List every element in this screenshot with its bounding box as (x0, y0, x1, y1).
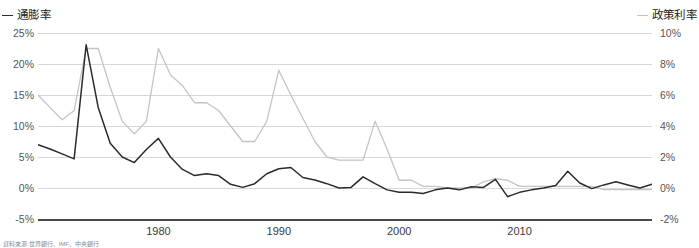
x-axis-tick: 2000 (369, 226, 429, 237)
y-axis-right-tick: 2% (660, 152, 699, 163)
line-dash-icon-policy-rate (637, 15, 648, 16)
x-axis-tick: 1980 (128, 226, 188, 237)
legend-label-inflation: 通膨率 (17, 10, 51, 22)
y-axis-left-tick: 10% (0, 121, 34, 132)
y-axis-left-tick: 0% (0, 183, 34, 194)
y-axis-right-tick: 4% (660, 121, 699, 132)
legend-item-policy-rate: 政策利率 (637, 10, 697, 22)
legend-label-policy-rate: 政策利率 (652, 10, 697, 22)
series-line-inflation (38, 45, 652, 197)
chart-container: 通膨率 政策利率 25%20%15%10%5%0%-5% 10%8%6%4%2%… (0, 0, 699, 248)
y-axis-right-tick: 8% (660, 59, 699, 70)
x-axis-baseline (38, 219, 652, 221)
y-axis-right-tick: 6% (660, 90, 699, 101)
y-axis-left-tick: -5% (0, 214, 34, 225)
y-axis-left-tick: 20% (0, 59, 34, 70)
plot-area (38, 33, 652, 219)
legend-item-inflation: 通膨率 (2, 10, 51, 22)
series-lines (38, 45, 652, 197)
y-axis-right-tick: 0% (660, 183, 699, 194)
y-axis-right-tick: -2% (660, 214, 699, 225)
x-axis-tick: 1990 (249, 226, 309, 237)
series-line-policy-rate (38, 49, 652, 190)
x-axis-tick: 2010 (490, 226, 550, 237)
y-axis-left-tick: 25% (0, 28, 34, 39)
y-axis-left-tick: 15% (0, 90, 34, 101)
gridlines (38, 33, 652, 219)
y-axis-left-tick: 5% (0, 152, 34, 163)
line-dash-icon-inflation (2, 15, 13, 16)
source-note: 資料來源:世界銀行、IMF、中央銀行 (3, 241, 99, 248)
y-axis-right-tick: 10% (660, 28, 699, 39)
